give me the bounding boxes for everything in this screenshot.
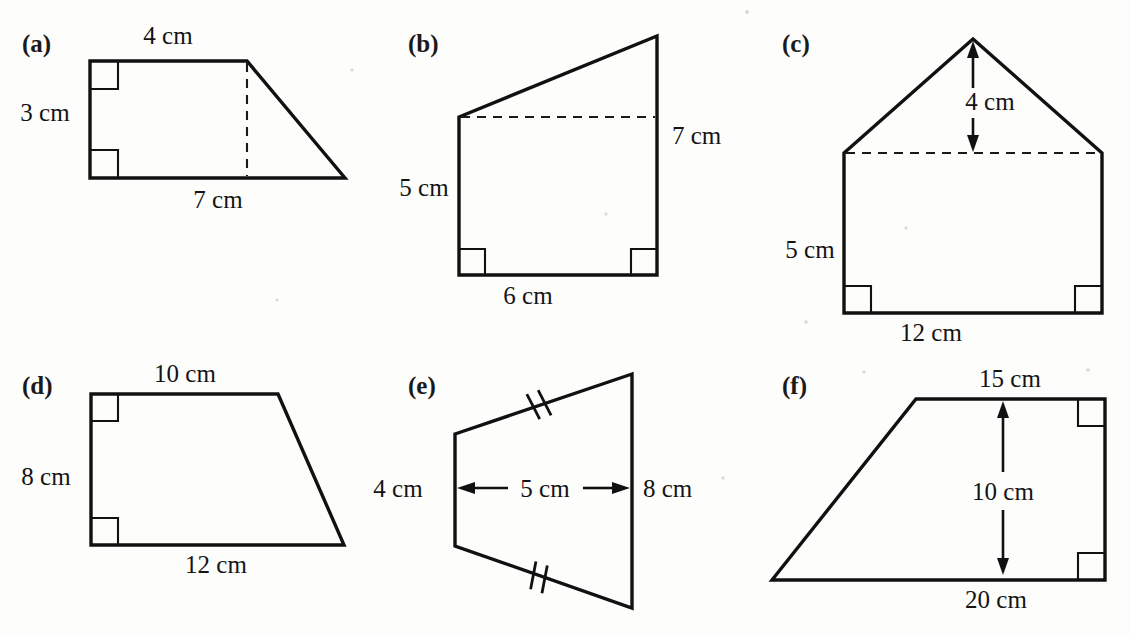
figure-e-left-label: 4 cm xyxy=(373,475,423,502)
scan-speck xyxy=(804,320,808,324)
figure-b-left-label: 5 cm xyxy=(399,174,449,201)
scan-speck xyxy=(862,370,865,373)
arrow-head-left-icon xyxy=(457,482,475,494)
figure-b: (b) 5 cm 7 cm 6 cm xyxy=(399,30,721,309)
figure-f-bottom-label: 20 cm xyxy=(965,586,1027,613)
figure-a-bottom-label: 7 cm xyxy=(193,186,243,213)
figure-c-bottom-label: 12 cm xyxy=(900,319,962,346)
figure-c-roof-height-label: 4 cm xyxy=(965,88,1015,115)
arrow-head-down-icon xyxy=(997,558,1009,575)
figure-b-outline xyxy=(459,36,657,275)
scan-speck xyxy=(1086,368,1090,372)
figure-e-part-label: (e) xyxy=(408,372,436,400)
right-angle-mark xyxy=(1075,286,1102,313)
arrow-head-right-icon xyxy=(612,482,630,494)
figure-b-bottom-label: 6 cm xyxy=(503,282,553,309)
right-angle-mark xyxy=(1078,399,1105,426)
scan-speck xyxy=(904,226,907,229)
scan-speck xyxy=(350,68,353,71)
figure-e-right-label: 8 cm xyxy=(643,475,693,502)
figure-e-middle-label: 5 cm xyxy=(520,475,570,502)
right-angle-mark xyxy=(631,249,657,275)
figure-d: (d) 10 cm 8 cm 12 cm xyxy=(21,360,344,578)
figure-f-height-label: 10 cm xyxy=(972,478,1034,505)
figure-c-part-label: (c) xyxy=(782,30,810,58)
arrow-head-up-icon xyxy=(997,401,1009,418)
right-angle-mark xyxy=(91,394,118,421)
figure-a-top-label: 4 cm xyxy=(143,22,193,49)
figure-b-right-label: 7 cm xyxy=(672,122,722,149)
figure-e: (e) 4 cm 5 cm 8 cm xyxy=(373,372,692,608)
figure-f-outline xyxy=(772,399,1105,580)
figure-d-left-label: 8 cm xyxy=(21,463,71,490)
figure-a-outline xyxy=(90,61,345,178)
figure-f: (f) 15 cm 10 cm 20 cm xyxy=(772,365,1105,613)
right-angle-mark xyxy=(459,249,485,275)
figure-d-part-label: (d) xyxy=(22,372,53,400)
figure-a: (a) 4 cm 3 cm 7 cm xyxy=(20,22,345,213)
figure-b-part-label: (b) xyxy=(408,30,439,58)
figure-f-top-label: 15 cm xyxy=(979,365,1041,392)
figure-a-left-label: 3 cm xyxy=(20,99,70,126)
figure-d-bottom-label: 12 cm xyxy=(185,551,247,578)
right-angle-mark xyxy=(91,518,118,545)
right-angle-mark xyxy=(1078,553,1105,580)
arrow-head-down-icon xyxy=(967,135,979,152)
figures-canvas: (a) 4 cm 3 cm 7 cm (b) 5 cm 7 cm 6 cm xyxy=(0,0,1130,636)
scan-speck xyxy=(604,212,607,215)
figure-d-outline xyxy=(91,394,344,545)
right-angle-mark xyxy=(90,61,118,89)
figure-f-part-label: (f) xyxy=(782,372,807,400)
figure-c: 4 cm (c) 5 cm 12 cm xyxy=(782,30,1102,346)
scan-speck xyxy=(745,10,749,14)
worksheet-page: (a) 4 cm 3 cm 7 cm (b) 5 cm 7 cm 6 cm xyxy=(0,0,1130,636)
figure-a-part-label: (a) xyxy=(22,30,51,58)
right-angle-mark xyxy=(844,286,871,313)
figure-d-top-label: 10 cm xyxy=(154,360,216,387)
right-angle-mark xyxy=(90,150,118,178)
scan-speck xyxy=(276,299,279,302)
figure-c-left-label: 5 cm xyxy=(785,236,835,263)
scan-speck xyxy=(721,476,724,479)
